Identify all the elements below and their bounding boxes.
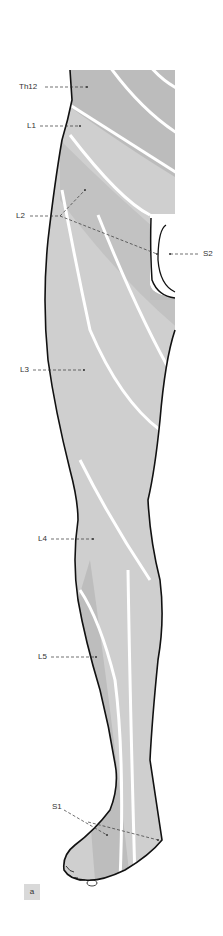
label-l4: L4 <box>38 534 47 543</box>
label-l1: L1 <box>27 121 36 130</box>
label-s2: S2 <box>203 249 213 258</box>
label-l2: L2 <box>16 211 25 220</box>
s2-region <box>150 215 175 298</box>
label-s1: S1 <box>52 802 62 811</box>
figure-label-badge: a <box>24 884 40 900</box>
dermatome-leg-diagram <box>0 0 223 936</box>
label-th12: Th12 <box>19 82 37 91</box>
label-l5: L5 <box>38 652 47 661</box>
label-l3: L3 <box>20 365 29 374</box>
